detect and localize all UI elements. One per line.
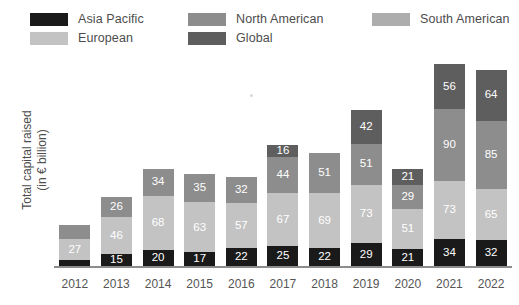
x-tick-2019: 2019 [346, 277, 387, 291]
bar-segment-value: 85 [485, 149, 498, 161]
bar-segment-north-american[interactable]: 35 [184, 174, 215, 202]
y-axis-label-line1: Total capital raised [20, 110, 34, 209]
bar-segment-value: 26 [110, 201, 123, 213]
bar-column-2021: 56907334 [429, 64, 470, 266]
bar-column-2017: 16446725 [262, 145, 303, 266]
bar-segment-north-american[interactable]: 32 [226, 177, 257, 203]
y-axis-label: Total capital raised (in € billion) [18, 52, 52, 267]
bar-segment-european[interactable]: 68 [143, 196, 174, 250]
legend-item-north-american[interactable]: North American [188, 12, 324, 26]
bar-segment-asia-pacific[interactable]: 22 [309, 248, 340, 266]
bar-segment-european[interactable]: 73 [434, 181, 465, 239]
bar-segment-north-american[interactable]: 34 [143, 169, 174, 196]
bar-segment-value: 44 [277, 169, 290, 181]
bar-segment-european[interactable]: 67 [267, 193, 298, 246]
bar-segment-asia-pacific[interactable]: 29 [351, 243, 382, 266]
bar-segment-value: 34 [152, 176, 165, 188]
x-tick-2012: 2012 [54, 277, 95, 291]
legend-item-european[interactable]: European [30, 31, 133, 45]
legend-swatch-icon [30, 13, 68, 26]
bar-segment-north-american[interactable]: 51 [309, 153, 340, 194]
x-axis-tick-labels: 2012201320142015201620172018201920202021… [54, 272, 512, 296]
bar-segment-value: 20 [152, 252, 165, 264]
legend-item-global[interactable]: Global [188, 31, 273, 45]
bar-segment-value: 42 [360, 121, 373, 133]
bar-segment-value: 57 [235, 220, 248, 232]
bar-segment-european[interactable]: 65 [476, 189, 507, 241]
bar-segment-asia-pacific[interactable]: 21 [392, 249, 423, 266]
stacked-bar[interactable]: 64856532 [476, 70, 507, 266]
x-tick-2021: 2021 [429, 277, 470, 291]
x-tick-2018: 2018 [304, 277, 345, 291]
stacked-bar[interactable]: 325722 [226, 177, 257, 266]
x-tick-2017: 2017 [262, 277, 303, 291]
bar-column-2012: 27 [54, 225, 95, 266]
bar-segment-european[interactable]: 69 [309, 193, 340, 248]
bar-segment-north-american[interactable]: 90 [434, 109, 465, 181]
bar-segment-global[interactable]: 64 [476, 70, 507, 121]
bar-column-2014: 346820 [138, 169, 179, 266]
bar-segment-european[interactable]: 57 [226, 203, 257, 249]
bar-segment-global[interactable]: 42 [351, 110, 382, 144]
legend-label: South American [420, 12, 510, 26]
bar-segment-global[interactable]: 21 [392, 169, 423, 186]
bar-segment-value: 65 [485, 209, 498, 221]
bar-segment-european[interactable]: 51 [392, 209, 423, 250]
bar-segment-value: 64 [485, 89, 498, 101]
stacked-bar[interactable]: 516922 [309, 153, 340, 266]
bar-segment-value: 29 [360, 249, 373, 261]
bar-column-2015: 356317 [179, 174, 220, 266]
bar-column-2020: 21295121 [387, 169, 428, 266]
bar-segment-north-american[interactable]: 85 [476, 121, 507, 189]
bar-segment-north-american[interactable] [59, 225, 90, 239]
legend-label: European [78, 31, 133, 45]
bar-segment-asia-pacific[interactable]: 22 [226, 248, 257, 266]
bar-segment-value: 51 [318, 167, 331, 179]
bar-segment-value: 32 [485, 247, 498, 259]
bar-segment-european[interactable]: 63 [184, 202, 215, 252]
x-tick-2015: 2015 [179, 277, 220, 291]
bar-segment-value: 46 [110, 230, 123, 242]
stacked-bar[interactable]: 346820 [143, 169, 174, 266]
stacked-bar[interactable]: 56907334 [434, 64, 465, 266]
stacked-bar[interactable]: 27 [59, 225, 90, 266]
stacked-bar[interactable]: 16446725 [267, 145, 298, 266]
bar-segment-european[interactable]: 73 [351, 185, 382, 243]
legend-item-south-american[interactable]: South American [372, 12, 510, 26]
bar-segment-value: 25 [277, 250, 290, 262]
bar-segment-global[interactable]: 56 [434, 64, 465, 109]
x-tick-2020: 2020 [387, 277, 428, 291]
bar-segment-value: 21 [401, 252, 414, 264]
bar-segment-asia-pacific[interactable]: 25 [267, 246, 298, 266]
bar-segment-value: 22 [235, 251, 248, 263]
bar-segment-value: 27 [68, 244, 81, 256]
bar-segment-asia-pacific[interactable]: 17 [184, 252, 215, 266]
bar-segment-north-american[interactable]: 29 [392, 185, 423, 208]
legend-label: North American [236, 12, 324, 26]
stacked-bar[interactable]: 264615 [101, 197, 132, 266]
x-tick-2022: 2022 [471, 277, 512, 291]
bar-segment-north-american[interactable]: 44 [267, 157, 298, 192]
bar-segment-global[interactable]: 16 [267, 145, 298, 158]
bar-segment-european[interactable]: 27 [59, 239, 90, 261]
stacked-bar[interactable]: 42517329 [351, 110, 382, 266]
bar-segment-value: 90 [443, 139, 456, 151]
bar-segment-north-american[interactable]: 51 [351, 144, 382, 185]
legend-item-asia-pacific[interactable]: Asia Pacific [30, 12, 144, 26]
bar-segment-asia-pacific[interactable]: 15 [101, 254, 132, 266]
bar-segment-asia-pacific[interactable]: 20 [143, 250, 174, 266]
bar-segment-value: 32 [235, 184, 248, 196]
stacked-bar[interactable]: 356317 [184, 174, 215, 266]
bar-segment-value: 51 [360, 158, 373, 170]
bar-segment-value: 15 [110, 254, 123, 266]
chart-legend: Asia PacificEuropeanNorth AmericanGlobal… [0, 0, 519, 52]
bar-segment-north-american[interactable]: 26 [101, 197, 132, 218]
stacked-bar[interactable]: 21295121 [392, 169, 423, 266]
bar-segment-asia-pacific[interactable]: 34 [434, 239, 465, 266]
bar-segment-european[interactable]: 46 [101, 217, 132, 254]
bar-segment-asia-pacific[interactable]: 32 [476, 240, 507, 266]
x-tick-2016: 2016 [221, 277, 262, 291]
bar-segment-value: 51 [401, 223, 414, 235]
bar-column-2022: 64856532 [471, 70, 512, 266]
page-speck [250, 94, 253, 97]
